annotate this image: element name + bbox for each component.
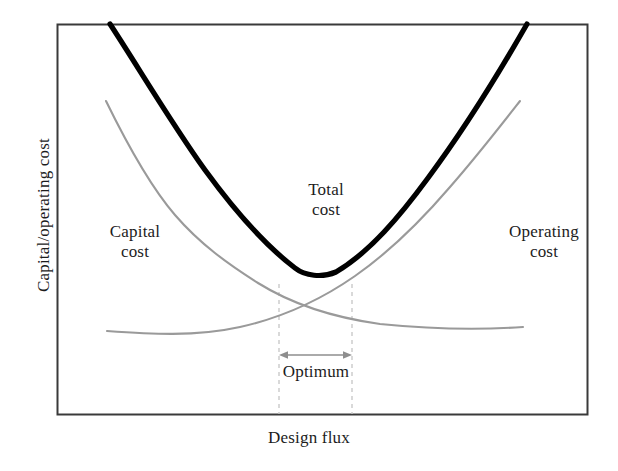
total-cost-label: Total cost: [272, 180, 380, 220]
x-axis-label: Design flux: [189, 428, 429, 448]
optimum-label: Optimum: [258, 362, 374, 382]
cost-optimisation-figure: Capital/operating cost Design flux Capit…: [0, 0, 618, 471]
operating-cost-label: Operating cost: [478, 222, 610, 262]
capital-cost-label: Capital cost: [80, 222, 190, 262]
y-axis-label: Capital/operating cost: [34, 85, 54, 345]
